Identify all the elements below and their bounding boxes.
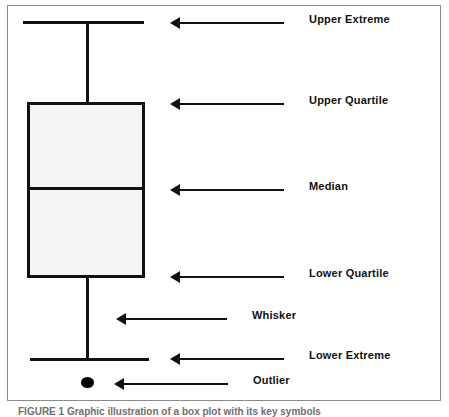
annotation-label-upper-extreme: Upper Extreme (309, 13, 390, 25)
annotation-lower-extreme: Lower Extreme (170, 351, 430, 367)
annotation-label-lower-quartile: Lower Quartile (309, 267, 389, 279)
annotation-label-upper-quartile: Upper Quartile (309, 94, 388, 106)
outlier-point (81, 377, 94, 388)
median-line (27, 187, 145, 190)
upper-whisker-stem (86, 22, 89, 104)
lower-whisker-stem (86, 276, 89, 361)
arrow-shaft (179, 358, 284, 360)
annotation-whisker: Whisker (116, 311, 426, 327)
annotation-lower-quartile: Lower Quartile (170, 269, 430, 285)
arrow-shaft (125, 318, 227, 320)
lower-extreme-cap (30, 358, 149, 361)
interquartile-box (27, 102, 145, 278)
annotation-upper-extreme: Upper Extreme (170, 15, 430, 31)
annotation-upper-quartile: Upper Quartile (170, 96, 430, 112)
annotation-median: Median (170, 182, 430, 198)
annotation-label-median: Median (309, 180, 348, 192)
arrow-shaft (179, 276, 284, 278)
annotation-label-outlier: Outlier (253, 374, 290, 386)
arrow-shaft (123, 383, 228, 385)
upper-extreme-cap (23, 21, 144, 24)
annotation-outlier: Outlier (114, 376, 424, 392)
annotation-label-lower-extreme: Lower Extreme (309, 349, 390, 361)
arrow-shaft (179, 189, 284, 191)
arrow-shaft (179, 103, 284, 105)
annotation-label-whisker: Whisker (252, 309, 296, 321)
figure-caption: FIGURE 1 Graphic illustration of a box p… (18, 406, 438, 417)
arrow-shaft (179, 22, 284, 24)
